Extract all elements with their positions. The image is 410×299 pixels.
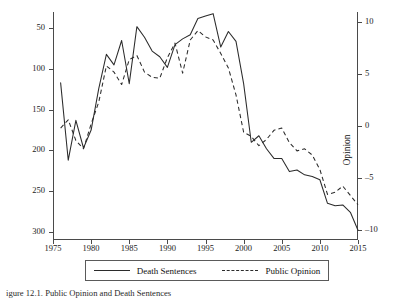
y-axis-right-tick <box>358 178 362 179</box>
x-axis-tick-label: 1985 <box>111 244 147 253</box>
y-axis-left-tick-label: 100 <box>32 64 45 73</box>
legend-swatch-solid <box>94 270 130 271</box>
x-axis-tick-label: 1975 <box>35 244 71 253</box>
y-axis-left-tick-label: 250 <box>32 186 45 195</box>
x-axis-tick-label: 1990 <box>149 244 185 253</box>
x-axis-tick-label: 2000 <box>226 244 262 253</box>
y-axis-right-tick <box>358 230 362 231</box>
y-axis-right-tick-label: –5 <box>365 173 374 182</box>
y-axis-left-tick-label: 50 <box>37 23 46 32</box>
x-axis-tick-label: 1980 <box>73 244 109 253</box>
y-axis-right-tick <box>358 74 362 75</box>
x-axis-tick-label: 2010 <box>302 244 338 253</box>
plot-area: 30025020015010050 1050–5–10 197519801985… <box>53 12 358 240</box>
y-axis-left-tick-label: 300 <box>32 227 45 236</box>
y-axis-right-tick <box>358 126 362 127</box>
y-axis-right-tick-label: 10 <box>365 17 374 26</box>
legend-label-public-opinion: Public Opinion <box>265 266 320 276</box>
legend-swatch-dashed <box>222 270 258 271</box>
legend-item-death-sentences: Death Sentences <box>94 266 197 276</box>
figure-death-sentences-public-opinion: Death Sentences Opinion 3002502001501005… <box>0 0 410 299</box>
x-axis-tick-label: 2015 <box>340 244 376 253</box>
chart-legend: Death Sentences Public Opinion <box>85 260 329 281</box>
legend-label-death-sentences: Death Sentences <box>137 266 197 276</box>
y-axis-right-tick-label: 0 <box>365 121 369 130</box>
figure-caption: igure 12.1. Public Opinion and Death Sen… <box>6 288 404 298</box>
y-axis-right-tick <box>358 22 362 23</box>
legend-item-public-opinion: Public Opinion <box>222 266 320 276</box>
series-line-death-sentences <box>61 14 358 231</box>
x-axis-tick-label: 2005 <box>264 244 300 253</box>
x-axis-tick-label: 1995 <box>188 244 224 253</box>
y-axis-right-tick-label: –10 <box>365 225 378 234</box>
y-axis-left-tick-label: 150 <box>32 105 45 114</box>
series-container <box>53 12 358 240</box>
series-line-public-opinion <box>61 31 358 205</box>
y-axis-left-tick-label: 200 <box>32 145 45 154</box>
y-axis-right-tick-label: 5 <box>365 69 369 78</box>
